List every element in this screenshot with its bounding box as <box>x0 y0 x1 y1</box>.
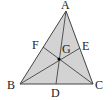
label-f: F <box>32 38 39 52</box>
triangle-diagram: A B C D E F G <box>0 0 112 100</box>
centroid-point <box>57 57 60 60</box>
label-g: G <box>62 42 71 56</box>
label-b: B <box>7 78 15 92</box>
label-c: C <box>95 78 103 92</box>
label-a: A <box>61 0 70 12</box>
label-e: E <box>82 39 89 53</box>
label-d: D <box>51 86 60 100</box>
